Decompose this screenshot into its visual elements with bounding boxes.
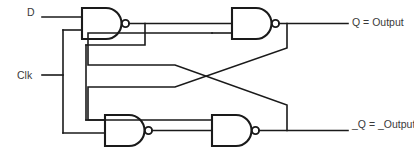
input-label-clk: Clk: [17, 69, 32, 81]
output-label-q: Q = Output: [352, 16, 404, 28]
output-label-nq: _Q = _Output: [352, 118, 414, 130]
circuit-diagram-canvas: D Clk Q = Output _Q = _Output: [0, 0, 414, 154]
nand-top-left-bubble: [122, 20, 129, 27]
nand-top-right-bubble: [272, 20, 279, 27]
nand-bottom-left-bubble: [145, 127, 152, 134]
input-label-d: D: [27, 6, 35, 18]
nand-bottom-right-body: [212, 115, 252, 146]
nand-bottom-right-bubble: [252, 127, 259, 134]
nand-top-right-body: [232, 8, 272, 39]
wire-nand-top-left-out-branch-left: [86, 24, 145, 46]
